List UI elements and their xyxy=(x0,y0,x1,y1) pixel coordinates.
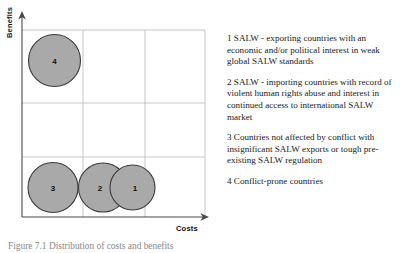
bubble-4[interactable]: 4 xyxy=(29,35,81,87)
legend-entry-3: 3 Countries not affected by conflict wit… xyxy=(227,132,399,167)
legend-entry-2: 2 SALW - importing countries with record… xyxy=(227,77,399,123)
legend-entry-1: 1 SALW - exporting countries with an eco… xyxy=(227,33,399,68)
bubble-1-label: 1 xyxy=(133,184,138,193)
bubble-4-label: 4 xyxy=(52,57,57,66)
figure-container: 4 3 2 1 Benefits Costs 1 SALW - export xyxy=(0,0,407,253)
legend-entry-4: 4 Conflict-prone countries xyxy=(227,176,399,188)
bubble-chart: 4 3 2 1 xyxy=(0,0,220,240)
chart-panel: 4 3 2 1 Benefits Costs xyxy=(0,0,220,240)
bubble-1[interactable]: 1 xyxy=(110,165,155,210)
bubble-3-label: 3 xyxy=(51,184,56,193)
y-axis-title: Benefits xyxy=(5,1,14,45)
figure-caption: Figure 7.1 Distribution of costs and ben… xyxy=(8,241,238,252)
bubble-3[interactable]: 3 xyxy=(28,163,78,213)
legend-panel: 1 SALW - exporting countries with an eco… xyxy=(227,33,399,188)
x-axis-title: Costs xyxy=(176,224,198,233)
bubble-2-label: 2 xyxy=(98,184,103,193)
